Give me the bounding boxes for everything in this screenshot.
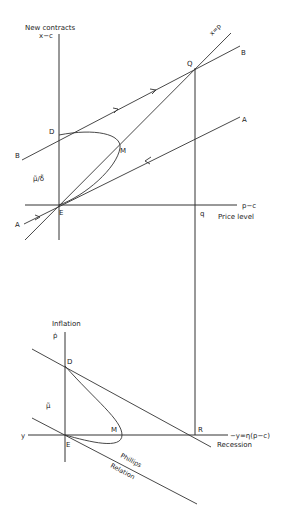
diagram-canvas: New contracts x−c D M E Q q B B A A μ̃/δ…	[0, 0, 290, 529]
x-minus-c-label: x−c	[39, 32, 53, 40]
point-q-label: Q	[187, 60, 193, 68]
point-q-lower-label: q	[200, 210, 204, 218]
point-d-bottom-label: D	[67, 358, 72, 366]
line-b-left-label: B	[15, 152, 20, 160]
line-a-left-label: A	[15, 221, 20, 229]
point-m-label: M	[120, 147, 126, 155]
mu-label: μ̃	[46, 402, 51, 410]
p-minus-c-label: p−c	[242, 202, 256, 210]
x-equals-p-label: x=p	[208, 22, 223, 37]
point-e-bottom-label: E	[66, 441, 70, 449]
line-b-right-label: B	[241, 49, 246, 57]
inflation-label: Inflation	[52, 320, 81, 328]
point-m-bottom-label: M	[111, 426, 117, 434]
mu-delta-ratio-label: μ̃/δ̃	[33, 174, 44, 183]
y-label: y	[21, 432, 25, 440]
line-a-right-label: A	[242, 116, 247, 124]
adjustment-loop-curve	[59, 132, 120, 205]
point-e-label: E	[59, 209, 63, 217]
point-d-label: D	[49, 128, 54, 136]
p-dot-label: ṗ	[53, 332, 58, 340]
minus-y-eta-label: −y=η(p−c)	[230, 432, 270, 440]
arrow-icon	[145, 157, 151, 164]
new-contracts-label: New contracts	[25, 24, 76, 32]
point-r-label: R	[198, 426, 203, 434]
recession-label: Recession	[217, 441, 252, 449]
price-level-label: Price level	[218, 213, 254, 221]
line-b	[22, 46, 240, 160]
